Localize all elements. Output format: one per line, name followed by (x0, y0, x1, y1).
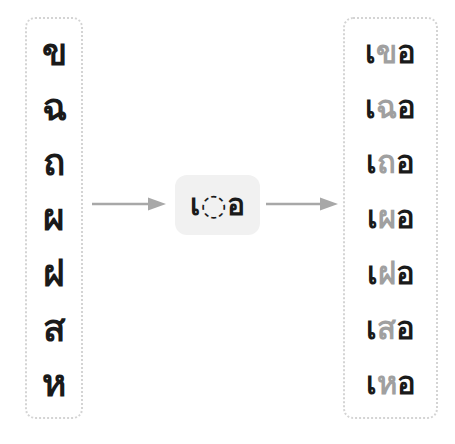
result-syllable-item: เฝอ (367, 258, 415, 289)
source-consonant-item: ฉ (42, 89, 67, 126)
source-consonant-glyph: ถ (43, 144, 65, 181)
source-consonant-item: ถ (43, 144, 65, 181)
source-consonant-item: ข (42, 34, 67, 71)
vowel-pattern-text: เ◌อ (190, 190, 244, 220)
leading-vowel-glyph: เ (367, 258, 378, 289)
source-consonant-glyph: ฝ (43, 255, 65, 292)
trailing-vowel-glyph: อ (396, 202, 415, 233)
result-consonant-glyph: ห (377, 368, 397, 399)
result-syllable-item: เหอ (366, 368, 416, 399)
trailing-vowel-glyph: อ (396, 313, 415, 344)
result-consonant-glyph: ส (377, 313, 396, 344)
trailing-vowel-glyph: อ (397, 92, 416, 123)
arrow-source-to-pattern-icon (92, 196, 166, 212)
result-consonant-glyph: ฝ (378, 258, 396, 289)
result-consonant-glyph: ฉ (376, 92, 397, 123)
leading-vowel-glyph: เ (365, 92, 376, 123)
leading-vowel-glyph: เ (366, 313, 377, 344)
leading-vowel-glyph: เ (366, 147, 377, 178)
result-consonant-glyph: ข (376, 37, 397, 68)
source-consonant-item: ผ (43, 199, 65, 236)
source-consonant-column: ข ฉ ถ ผ ฝ ส ห (25, 17, 83, 419)
result-syllable-item: เขอ (365, 37, 416, 68)
result-consonant-glyph: ถ (377, 147, 396, 178)
source-consonant-glyph: ฉ (42, 89, 67, 126)
trailing-vowel-glyph: อ (396, 258, 415, 289)
result-syllable-item: เสอ (366, 313, 415, 344)
arrow-pattern-to-result-icon (266, 196, 338, 212)
trailing-vowel-glyph: อ (396, 147, 415, 178)
trailing-vowel-glyph: อ (397, 37, 416, 68)
result-syllable-item: เถอ (366, 147, 415, 178)
vowel-pattern-chip: เ◌อ (175, 175, 260, 235)
source-consonant-item: ส (43, 310, 66, 347)
source-consonant-item: ห (42, 365, 66, 402)
source-consonant-glyph: ผ (43, 199, 65, 236)
trailing-vowel-glyph: อ (397, 368, 416, 399)
result-syllable-item: เผอ (367, 202, 415, 233)
result-syllable-column: เขอ เฉอ เถอ เผอ เฝอ เสอ เหอ (343, 17, 438, 419)
source-consonant-glyph: ข (42, 34, 67, 71)
diagram-canvas: ข ฉ ถ ผ ฝ ส ห เ◌อ เขอ เฉอ เถอ (0, 0, 455, 444)
leading-vowel-glyph: เ (367, 202, 378, 233)
result-syllable-item: เฉอ (365, 92, 416, 123)
source-consonant-glyph: ส (43, 310, 66, 347)
leading-vowel-glyph: เ (366, 368, 377, 399)
source-consonant-item: ฝ (43, 255, 65, 292)
result-consonant-glyph: ผ (378, 202, 396, 233)
source-consonant-glyph: ห (42, 365, 66, 402)
leading-vowel-glyph: เ (365, 37, 376, 68)
